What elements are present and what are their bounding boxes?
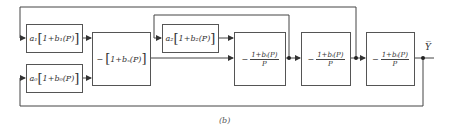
fraction-int2: 1+bᵢ(P) P: [316, 51, 344, 68]
gain-a2: a₂: [166, 34, 174, 43]
block-a1: a₁ [ 1+b₁(P) ]: [26, 24, 83, 53]
denominator: P: [262, 60, 267, 68]
block-a2: a₂ [ 1+b₂(P) ]: [162, 24, 219, 53]
bracket-right: ]: [141, 54, 146, 64]
expr-a0: 1+b₀(P): [43, 74, 75, 83]
numerator: 1+bᵢ(P): [250, 51, 278, 60]
sign-int1: −: [241, 55, 248, 64]
numerator: 1+bᵢ(P): [316, 51, 344, 60]
fraction-int3: 1+bᵢ(P) P: [381, 51, 409, 68]
gain-a1: a₁: [30, 34, 38, 43]
block-a0: a₀ [ 1+b₀(P) ]: [26, 64, 83, 93]
gain-a0: a₀: [30, 74, 38, 83]
figure-caption: (b): [219, 116, 230, 125]
denominator: P: [328, 60, 333, 68]
output-label: Y̅: [425, 42, 431, 52]
denominator: P: [392, 60, 397, 68]
block-integrator-2: − 1+bᵢ(P) P: [301, 32, 351, 86]
sign-bs: −: [96, 55, 103, 64]
block-integrator-1: − 1+bᵢ(P) P: [234, 32, 286, 86]
sign-int3: −: [372, 55, 379, 64]
bracket-right: ]: [210, 34, 215, 44]
block-bs: − [ 1+bₛ(P) ]: [92, 32, 151, 86]
sign-int2: −: [307, 55, 314, 64]
bracket-right: ]: [74, 34, 79, 44]
numerator: 1+bᵢ(P): [381, 51, 409, 60]
expr-a2: 1+b₂(P): [179, 34, 211, 43]
block-integrator-3: − 1+bᵢ(P) P: [366, 32, 415, 86]
fraction-int1: 1+bᵢ(P) P: [250, 51, 278, 68]
expr-a1: 1+b₁(P): [43, 34, 75, 43]
expr-bs: 1+bₛ(P): [110, 55, 141, 64]
bracket-right: ]: [74, 74, 79, 84]
